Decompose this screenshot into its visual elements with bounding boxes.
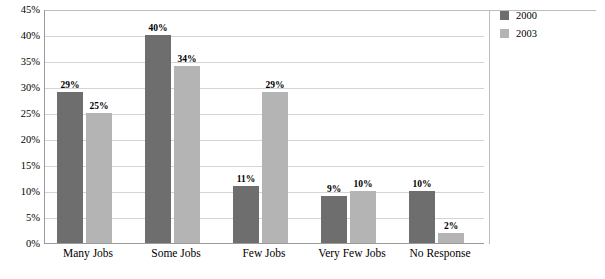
bar-value-label: 10% bbox=[343, 179, 383, 189]
bar-group: 10%2% bbox=[397, 10, 485, 243]
x-axis-tick-label: Very Few Jobs bbox=[302, 247, 402, 260]
legend-swatch bbox=[500, 29, 509, 38]
legend-item[interactable]: 2003 bbox=[500, 28, 596, 39]
bar-value-label: 11% bbox=[226, 174, 266, 184]
y-axis-tick-label: 5% bbox=[0, 213, 40, 223]
bar-group: 9%10% bbox=[309, 10, 397, 243]
legend-divider bbox=[489, 10, 490, 244]
bar bbox=[145, 35, 171, 243]
bar-value-label: 2% bbox=[431, 221, 471, 231]
bar bbox=[174, 66, 200, 243]
bar-value-label: 25% bbox=[79, 101, 119, 111]
bar bbox=[438, 233, 464, 243]
bar bbox=[86, 113, 112, 243]
bar bbox=[262, 92, 288, 243]
y-axis-tick-label: 35% bbox=[0, 57, 40, 67]
chart-legend: 20002003 bbox=[500, 10, 596, 46]
bar bbox=[350, 191, 376, 243]
bar-value-label: 29% bbox=[255, 80, 295, 90]
x-axis-tick-label: Few Jobs bbox=[214, 247, 314, 260]
bar-value-label: 10% bbox=[402, 179, 442, 189]
bar-value-label: 40% bbox=[138, 23, 178, 33]
y-axis-tick-label: 40% bbox=[0, 31, 40, 41]
bar-value-label: 34% bbox=[167, 54, 207, 64]
y-axis-tick-label: 10% bbox=[0, 187, 40, 197]
bar bbox=[409, 191, 435, 243]
bar bbox=[321, 196, 347, 243]
y-axis-tick-label: 25% bbox=[0, 109, 40, 119]
legend-label: 2000 bbox=[516, 10, 537, 21]
bar-group: 40%34% bbox=[133, 10, 221, 243]
y-axis-tick-label: 30% bbox=[0, 83, 40, 93]
bar-group: 11%29% bbox=[221, 10, 309, 243]
legend-label: 2003 bbox=[516, 28, 537, 39]
legend-swatch bbox=[500, 11, 509, 20]
plot-area: 29%25%40%34%11%29%9%10%10%2% bbox=[44, 10, 484, 244]
y-axis-tick-label: 20% bbox=[0, 135, 40, 145]
plot-inner: 29%25%40%34%11%29%9%10%10%2% bbox=[45, 10, 484, 243]
legend-item[interactable]: 2000 bbox=[500, 10, 596, 21]
bar-chart: 0%5%10%15%20%25%30%35%40%45% 29%25%40%34… bbox=[0, 0, 605, 279]
bar bbox=[57, 92, 83, 243]
bar-group: 29%25% bbox=[45, 10, 133, 243]
y-axis-tick-label: 0% bbox=[0, 239, 40, 249]
x-axis-tick-label: Some Jobs bbox=[126, 247, 226, 260]
bar bbox=[233, 186, 259, 243]
y-axis-tick-label: 15% bbox=[0, 161, 40, 171]
y-axis-tick-label: 45% bbox=[0, 5, 40, 15]
x-axis-tick-label: Many Jobs bbox=[38, 247, 138, 260]
x-axis-tick-label: No Response bbox=[390, 247, 490, 260]
bar-value-label: 29% bbox=[50, 80, 90, 90]
